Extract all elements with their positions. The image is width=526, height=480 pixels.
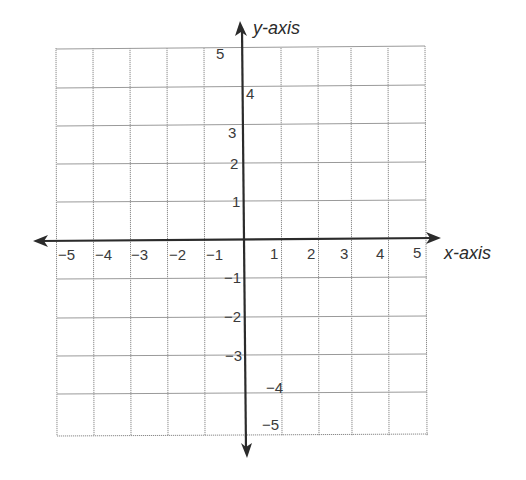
x-axis-line	[40, 238, 434, 241]
x-tick-label: 1	[270, 245, 278, 262]
y-tick-label: 2	[230, 155, 238, 172]
y-tick-label: −3	[225, 347, 242, 364]
y-tick-label: −5	[262, 416, 279, 433]
x-tick-label: 5	[413, 244, 421, 261]
grid-line-x-n5	[56, 48, 57, 436]
grid-line-y-p2	[57, 162, 426, 164]
grid-line-y-p1	[57, 200, 426, 202]
grid-line-x-p4	[388, 48, 389, 436]
x-tick-label: −4	[95, 246, 112, 263]
coordinate-plane: −5 −4 −3 −2 −1 1 2 3 4 5 5 4 3 2 1 −1 −2…	[0, 0, 526, 480]
y-axis-title: y-axis	[251, 18, 300, 38]
grid-line-x-n4	[93, 48, 94, 436]
y-tick-label: 4	[246, 85, 254, 102]
x-tick-label: 2	[307, 245, 315, 262]
x-tick-label: −3	[131, 246, 148, 263]
x-tick-label: −2	[169, 246, 186, 263]
grid-line-x-p1	[281, 48, 282, 436]
y-tick-label: 1	[232, 193, 240, 210]
x-tick-labels: −5 −4 −3 −2 −1 1 2 3 4 5	[58, 244, 421, 263]
grid-line-y-p4	[56, 85, 425, 88]
grid-line-x-n2	[167, 48, 168, 436]
grid-line-x-p5	[425, 46, 427, 436]
x-tick-label: −5	[58, 246, 75, 263]
grid-line-y-n4	[57, 392, 427, 394]
grid-line-y-p3	[57, 123, 426, 126]
grid-line-x-n1	[204, 48, 205, 436]
x-tick-label: 4	[376, 245, 384, 262]
grid-line-y-n5	[57, 434, 428, 436]
y-tick-label: −2	[224, 308, 241, 325]
x-tick-label: −1	[206, 246, 223, 263]
y-tick-label: 3	[228, 124, 236, 141]
grid-line-x-p3	[351, 48, 352, 436]
grid-line-y-n1	[57, 277, 427, 279]
y-tick-label: 5	[216, 45, 224, 62]
y-tick-label: −4	[266, 379, 283, 396]
x-axis-title: x-axis	[443, 243, 491, 263]
grid-line-x-p2	[318, 48, 319, 436]
grid-line-y-n2	[57, 316, 427, 318]
grid-line-y-p5	[56, 46, 425, 49]
grid-line-x-n3	[130, 48, 131, 436]
x-tick-label: 3	[340, 245, 348, 262]
y-tick-label: −1	[224, 269, 241, 286]
